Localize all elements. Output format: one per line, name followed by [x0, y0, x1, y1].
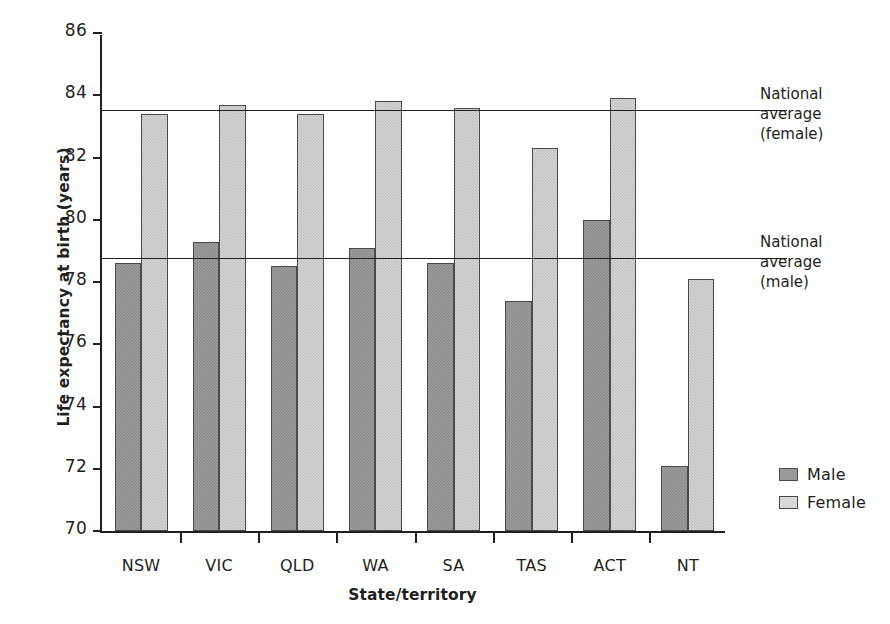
x-tick-mark [493, 531, 495, 543]
bar-sa-female [454, 108, 481, 531]
y-tick-mark [93, 343, 102, 345]
y-tick-label: 86 [45, 20, 87, 40]
annotation-line: (female) [760, 125, 888, 145]
x-tick-mark [415, 531, 417, 543]
bar-nt-male [661, 466, 688, 531]
bar-wa-male [349, 248, 376, 531]
y-tick-label: 74 [45, 394, 87, 414]
female-swatch [779, 496, 798, 509]
legend-label: Female [807, 493, 866, 512]
bar-wa-female [375, 101, 402, 531]
y-tick-mark [93, 32, 102, 34]
y-tick-label: 78 [45, 269, 87, 289]
y-tick-label: 82 [45, 145, 87, 165]
x-tick-mark [336, 531, 338, 543]
y-tick-mark [93, 157, 102, 159]
y-tick-label: 70 [45, 518, 87, 538]
annotation-line: average [760, 105, 888, 125]
y-tick-mark [93, 406, 102, 408]
x-tick-mark [180, 531, 182, 543]
y-tick-mark [93, 468, 102, 470]
chart-legend: MaleFemale [779, 465, 866, 521]
bar-act-female [610, 98, 637, 531]
bar-qld-male [271, 266, 298, 531]
annotation-line: (male) [760, 273, 888, 293]
bar-nsw-male [115, 263, 142, 531]
bar-act-male [583, 220, 610, 531]
y-tick-mark [93, 94, 102, 96]
x-tick-mark [258, 531, 260, 543]
y-tick-mark [93, 281, 102, 283]
bar-qld-female [297, 114, 324, 531]
national-average-female-label: Nationalaverage(female) [760, 85, 888, 145]
bar-nt-female [688, 279, 715, 531]
y-tick-label: 80 [45, 207, 87, 227]
annotation-line: average [760, 253, 888, 273]
x-tick-label-nt: NT [677, 556, 699, 575]
x-axis-title: State/territory [100, 586, 725, 604]
national-average-male-label: Nationalaverage(male) [760, 233, 888, 293]
bar-sa-male [427, 263, 454, 531]
y-tick-mark [93, 530, 102, 532]
y-tick-label: 84 [45, 82, 87, 102]
y-tick-mark [93, 219, 102, 221]
x-tick-label-act: ACT [594, 556, 627, 575]
x-tick-label-sa: SA [443, 556, 465, 575]
x-tick-mark [571, 531, 573, 543]
x-tick-label-qld: QLD [280, 556, 315, 575]
bar-tas-male [505, 301, 532, 531]
bar-vic-female [219, 105, 246, 531]
y-tick-label: 76 [45, 331, 87, 351]
bar-vic-male [193, 242, 220, 531]
plot-area: 707274767880828486 NSWVICQLDWASATASACTNT [100, 35, 725, 533]
bar-tas-female [532, 148, 559, 531]
legend-label: Male [807, 465, 846, 484]
x-tick-label-vic: VIC [205, 556, 233, 575]
national-average-female-line [102, 110, 727, 111]
annotation-line: National [760, 233, 888, 253]
legend-item-male[interactable]: Male [779, 465, 866, 484]
life-expectancy-bar-chart: Life expectancy at birth (years) 7072747… [0, 0, 890, 624]
x-tick-mark [649, 531, 651, 543]
annotation-line: National [760, 85, 888, 105]
bar-nsw-female [141, 114, 168, 531]
y-tick-label: 72 [45, 456, 87, 476]
x-tick-label-nsw: NSW [122, 556, 161, 575]
x-tick-label-tas: TAS [516, 556, 547, 575]
legend-item-female[interactable]: Female [779, 493, 866, 512]
x-tick-label-wa: WA [362, 556, 389, 575]
national-average-male-line [102, 258, 727, 259]
male-swatch [779, 468, 798, 481]
